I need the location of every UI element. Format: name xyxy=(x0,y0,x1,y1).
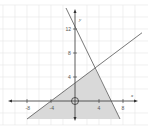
x-axis-left-arrow-icon xyxy=(8,100,12,103)
x-axis-right-arrow-icon xyxy=(134,100,138,103)
y-tick-label: 12 xyxy=(66,26,72,32)
coordinate-plane: -8 -4 4 8 4 8 12 y x xyxy=(0,0,148,140)
x-tick-label: -4 xyxy=(50,105,55,111)
shaded-region xyxy=(27,68,120,119)
x-tick-label: 8 xyxy=(122,105,125,111)
y-axis-up-arrow-icon xyxy=(74,9,77,13)
x-tick-label: -8 xyxy=(26,105,31,111)
x-tick-label: 4 xyxy=(98,105,101,111)
y-axis-label: y xyxy=(78,17,82,22)
y-tick-label: 8 xyxy=(68,50,71,56)
x-axis-label: x xyxy=(130,93,134,98)
y-tick-label: 4 xyxy=(68,74,71,80)
